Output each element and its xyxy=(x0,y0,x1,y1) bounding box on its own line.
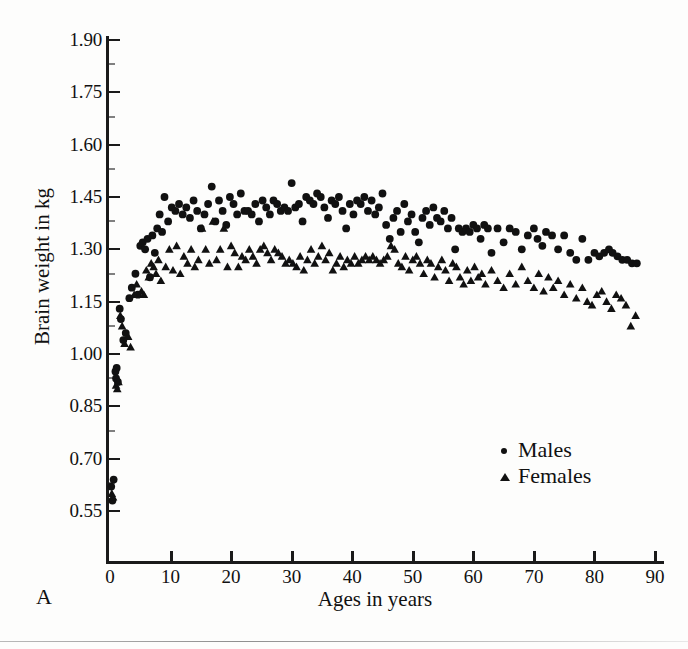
data-point-male xyxy=(339,207,347,215)
x-tick-label-70: 70 xyxy=(511,566,557,587)
data-point-male xyxy=(350,211,358,219)
data-point-male xyxy=(230,200,238,208)
data-point-male xyxy=(530,225,538,233)
data-point-female xyxy=(132,280,141,288)
data-point-female xyxy=(249,252,258,260)
data-point-male xyxy=(324,214,332,222)
data-point-male xyxy=(201,211,209,219)
data-point-male xyxy=(419,214,427,222)
data-point-female xyxy=(176,269,185,277)
data-point-female xyxy=(157,276,166,284)
x-tick-label-80: 80 xyxy=(571,566,617,587)
data-point-male xyxy=(488,249,496,257)
data-point-male xyxy=(633,259,641,267)
data-point-male xyxy=(437,218,445,226)
data-point-female xyxy=(234,262,243,270)
data-point-male xyxy=(584,256,592,264)
x-tick-label-90: 90 xyxy=(632,566,678,587)
data-point-female xyxy=(201,245,210,253)
data-point-female xyxy=(252,259,261,267)
data-point-male xyxy=(554,245,562,253)
data-point-male xyxy=(151,249,159,257)
data-point-male xyxy=(156,211,164,219)
data-point-female xyxy=(296,252,305,260)
data-point-female xyxy=(441,266,450,274)
data-point-female xyxy=(350,252,359,260)
data-point-male xyxy=(186,214,194,222)
data-point-male xyxy=(408,211,416,219)
data-point-female xyxy=(487,266,496,274)
data-point-male xyxy=(371,211,379,219)
data-point-male xyxy=(477,235,485,243)
data-point-female xyxy=(493,276,502,284)
y-tick-label-0.55: 0.55 xyxy=(40,501,102,520)
data-point-male xyxy=(342,225,350,233)
data-point-female xyxy=(481,280,490,288)
data-point-male xyxy=(360,193,368,201)
data-point-male xyxy=(512,228,520,236)
data-point-female xyxy=(631,311,640,319)
data-point-male xyxy=(161,193,169,201)
data-point-female xyxy=(180,252,189,260)
data-point-male xyxy=(208,183,216,191)
data-point-male xyxy=(193,207,201,215)
data-point-male xyxy=(393,207,401,215)
data-point-male xyxy=(572,256,580,264)
data-point-male xyxy=(266,211,274,219)
x-tick-label-50: 50 xyxy=(390,566,436,587)
data-point-female xyxy=(152,269,161,277)
data-point-male xyxy=(116,305,124,313)
data-point-female xyxy=(183,259,192,267)
data-point-female xyxy=(530,283,539,291)
data-point-female xyxy=(478,269,487,277)
data-point-female xyxy=(332,259,341,267)
data-point-female xyxy=(212,256,221,264)
data-point-male xyxy=(404,218,412,226)
data-point-male xyxy=(386,235,394,243)
data-point-female xyxy=(456,273,465,281)
data-point-male xyxy=(484,225,492,233)
data-point-female xyxy=(622,301,631,309)
data-point-female xyxy=(116,311,125,319)
data-point-female xyxy=(445,276,454,284)
data-point-male xyxy=(164,218,172,226)
data-point-male xyxy=(548,231,556,239)
data-point-female xyxy=(161,262,170,270)
data-point-male xyxy=(379,190,387,198)
data-point-male xyxy=(518,245,526,253)
data-point-female xyxy=(187,245,196,253)
data-point-male xyxy=(110,476,118,484)
data-point-female xyxy=(626,322,635,330)
data-point-male xyxy=(500,238,508,246)
data-point-male xyxy=(219,207,227,215)
data-point-female xyxy=(227,242,236,250)
data-point-female xyxy=(118,322,127,330)
data-point-male xyxy=(320,204,328,212)
data-point-male xyxy=(310,200,318,208)
data-point-male xyxy=(444,225,452,233)
data-point-female xyxy=(318,242,327,250)
data-point-male xyxy=(215,197,223,205)
x-tick-label-30: 30 xyxy=(269,566,315,587)
data-point-female xyxy=(263,249,272,257)
data-point-female xyxy=(560,290,569,298)
triangle-marker-icon xyxy=(497,468,513,484)
data-point-female xyxy=(190,262,199,270)
data-point-male xyxy=(158,228,166,236)
data-point-male xyxy=(255,218,263,226)
data-point-female xyxy=(223,262,232,270)
data-point-female xyxy=(310,259,319,267)
x-tick-label-10: 10 xyxy=(148,566,194,587)
data-point-female xyxy=(339,262,348,270)
data-point-female xyxy=(434,262,443,270)
data-point-female xyxy=(597,287,606,295)
x-axis-title: Ages in years xyxy=(210,588,540,611)
data-point-female xyxy=(438,256,447,264)
data-point-male xyxy=(538,242,546,250)
data-point-male xyxy=(375,204,383,212)
data-point-female xyxy=(245,245,254,253)
y-tick-label-1.90: 1.90 xyxy=(40,30,102,49)
data-point-male xyxy=(259,197,267,205)
data-point-male xyxy=(440,207,448,215)
data-point-male xyxy=(233,211,241,219)
